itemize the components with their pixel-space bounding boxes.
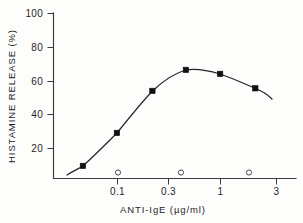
data-point bbox=[217, 71, 222, 76]
x-tick-label-0.3: 0.3 bbox=[161, 186, 176, 197]
x-axis-title: ANTI-IgE (µg/ml) bbox=[120, 204, 206, 215]
data-point bbox=[253, 86, 258, 91]
x-tick-label-1: 1 bbox=[218, 186, 224, 197]
data-point bbox=[114, 130, 119, 135]
control-point bbox=[246, 170, 251, 175]
y-tick-label-60: 60 bbox=[31, 76, 43, 87]
y-tick-label-80: 80 bbox=[31, 42, 43, 53]
data-point bbox=[80, 163, 85, 168]
y-tick-label-20: 20 bbox=[31, 143, 43, 154]
data-point bbox=[150, 88, 155, 93]
histamine-release-curve bbox=[67, 69, 272, 175]
x-tick-label-0.1: 0.1 bbox=[110, 186, 125, 197]
y-tick-label-40: 40 bbox=[31, 109, 43, 120]
y-axis-title: HISTAMINE RELEASE (%) bbox=[6, 29, 17, 163]
histamine-release-plot: 100 80 60 40 20 0.1 0.3 1 3 ANTI-IgE (µg… bbox=[0, 0, 303, 223]
data-point bbox=[183, 67, 188, 72]
control-point bbox=[115, 170, 120, 175]
y-tick-label-100: 100 bbox=[25, 8, 43, 19]
chart-figure: 100 80 60 40 20 0.1 0.3 1 3 ANTI-IgE (µg… bbox=[0, 0, 303, 223]
control-point-markers bbox=[115, 170, 251, 175]
data-point-markers bbox=[80, 67, 258, 168]
x-tick-label-3: 3 bbox=[274, 186, 280, 197]
control-point bbox=[178, 170, 183, 175]
